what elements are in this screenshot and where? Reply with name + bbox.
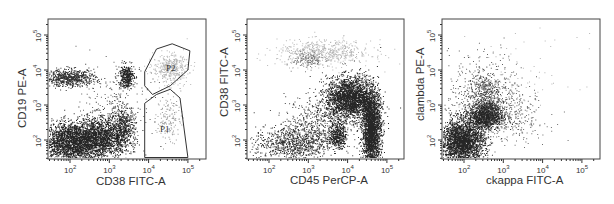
y-tick-label: 105 — [32, 30, 43, 42]
x-tick-label: 102 — [263, 164, 275, 175]
y-axis-label: CD19 PE-A — [16, 69, 28, 128]
y-tick-label: 103 — [231, 100, 242, 112]
data-points — [427, 27, 590, 180]
x-tick-label: 105 — [381, 164, 393, 175]
y-tick-label: 103 — [32, 100, 43, 112]
y-tick-label: 102 — [32, 135, 43, 147]
y-tick-label: 103 — [426, 100, 437, 112]
x-tick-label: 104 — [537, 164, 549, 175]
x-tick-label: 102 — [458, 164, 470, 175]
y-tick-label: 105 — [231, 30, 242, 42]
y-tick-label: 104 — [231, 65, 242, 77]
y-tick-label: 104 — [426, 65, 437, 77]
y-axis-label: CD38 FITC-A — [218, 47, 230, 117]
plot-panel-lambda-vs-kappa: clambda PE-A ckappa FITC-A 1021021031031… — [400, 0, 614, 204]
y-axis-label: clambda PE-A — [414, 47, 426, 121]
y-tick-label: 104 — [32, 65, 43, 77]
x-axis-label: CD38 FITC-A — [96, 175, 166, 187]
x-tick-label: 105 — [182, 164, 194, 175]
x-tick-label: 103 — [302, 164, 314, 175]
x-tick-label: 103 — [497, 164, 509, 175]
gate-label-p1[interactable]: P1 — [160, 124, 170, 134]
x-tick-label: 102 — [64, 164, 76, 175]
x-axis-label: CD45 PerCP-A — [290, 174, 368, 186]
y-tick-label: 102 — [231, 135, 242, 147]
gate-label-p2[interactable]: P2 — [166, 63, 176, 73]
plot-panel-cd19-vs-cd38: CD19 PE-A CD38 FITC-A P2 P1 102102103103… — [0, 0, 210, 204]
x-tick-label: 104 — [342, 164, 354, 175]
y-tick-label: 102 — [426, 135, 437, 147]
x-tick-label: 103 — [103, 164, 115, 175]
plot-panel-cd38-vs-cd45: CD38 FITC-A CD45 PerCP-A 102102103103104… — [200, 0, 410, 204]
y-tick-label: 105 — [426, 30, 437, 42]
x-tick-label: 105 — [576, 164, 588, 175]
x-axis-label: ckappa FITC-A — [486, 174, 563, 186]
x-tick-label: 104 — [143, 164, 155, 175]
